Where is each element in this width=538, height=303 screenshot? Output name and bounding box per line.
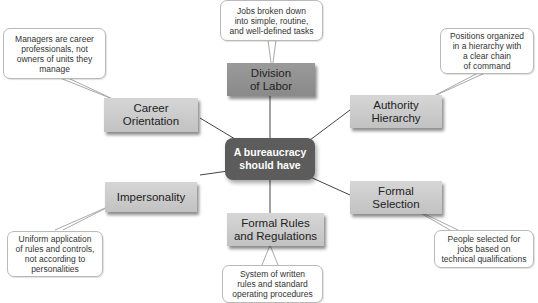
node-formal-rules: Formal Rules and Regulations (227, 213, 324, 246)
node-formal-selection: Formal Selection (350, 181, 442, 214)
career-orientation-description: Managers are career professionals, not o… (3, 28, 106, 79)
formal-rules-description: System of written rules and standard ope… (222, 265, 323, 303)
node-authority-hierarchy: Authority Hierarchy (350, 95, 442, 128)
node-career-orientation: Career Orientation (104, 98, 198, 132)
formal-selection-description: People selected for jobs based on techni… (434, 230, 534, 268)
division-of-labor-description: Jobs broken down into simple, routine, a… (220, 0, 323, 41)
node-division-of-labor: Division of Labor (227, 63, 315, 96)
node-impersonality: Impersonality (105, 182, 197, 212)
bureaucracy-diagram: Managers are career professionals, not o… (0, 0, 538, 303)
authority-hierarchy-description: Positions organized in a hierarchy with … (440, 28, 534, 74)
center-node-bureaucracy: A bureaucracy should have (225, 138, 315, 180)
impersonality-description: Uniform application of rules and control… (7, 231, 103, 277)
